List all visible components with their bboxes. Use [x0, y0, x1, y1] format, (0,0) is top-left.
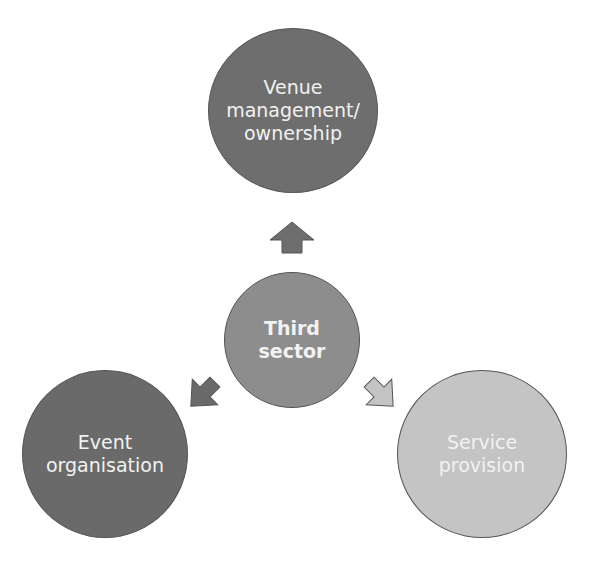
- node-service-provision: Service provision: [397, 370, 567, 538]
- node-label-line: Venue: [226, 76, 360, 99]
- node-third-sector: Third sector: [224, 272, 360, 408]
- node-event-organisation: Event organisation: [22, 370, 188, 538]
- center-label-line: sector: [259, 340, 326, 363]
- node-label-line: Service: [439, 431, 525, 454]
- node-venue-management: Venue management/ ownership: [208, 28, 378, 193]
- node-label-line: organisation: [46, 454, 164, 477]
- node-label-line: Event: [46, 431, 164, 454]
- node-label-line: ownership: [226, 122, 360, 145]
- arrow-down-left-icon: [178, 369, 227, 418]
- center-label-line: Third: [259, 317, 326, 340]
- arrow-up-icon: [270, 222, 314, 253]
- arrow-down-right-icon: [356, 369, 405, 418]
- node-label-line: management/: [226, 99, 360, 122]
- node-label-line: provision: [439, 454, 525, 477]
